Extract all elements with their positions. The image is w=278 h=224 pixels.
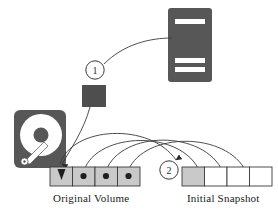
snapshot-cell-2 xyxy=(227,167,250,186)
diagram-svg: 1 2 xyxy=(0,0,278,224)
hard-disk-icon xyxy=(14,110,66,168)
snapshot-cell-1 xyxy=(205,167,228,186)
original-volume-label: Original Volume xyxy=(53,192,129,204)
snapshot-cell-0 xyxy=(182,167,205,186)
data-block xyxy=(82,85,106,107)
original-volume-bar xyxy=(50,167,140,186)
server-tower-icon xyxy=(168,8,212,82)
volume-cell-3-dot-icon xyxy=(125,173,131,179)
connector-block-to-volume-cell0 xyxy=(62,107,90,164)
snapshot-cell-3 xyxy=(250,167,273,186)
badge-1-label: 1 xyxy=(93,65,98,76)
badge-1: 1 xyxy=(86,61,104,79)
badge-2-label: 2 xyxy=(167,165,172,176)
volume-cell-1-dot-icon xyxy=(80,173,86,179)
initial-snapshot-bar xyxy=(182,167,272,186)
badge-2: 2 xyxy=(160,161,178,179)
volume-cell-2-dot-icon xyxy=(103,173,109,179)
diagram-canvas: 1 2 xyxy=(0,0,278,224)
initial-snapshot-label: Initial Snapshot xyxy=(187,192,260,204)
connector-server-to-badge1 xyxy=(104,38,172,64)
